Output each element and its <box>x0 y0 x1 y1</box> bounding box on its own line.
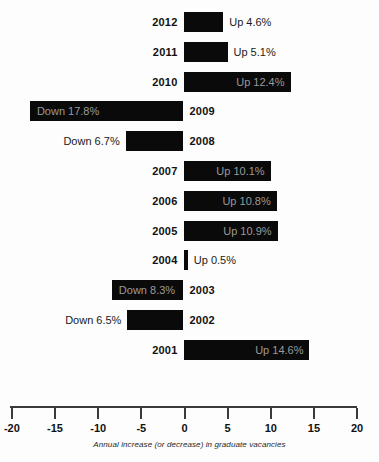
bar-row: 2002Down 6.5% <box>0 308 379 332</box>
bar-2004[interactable] <box>184 250 188 270</box>
value-label-2012: Up 4.6% <box>229 14 271 30</box>
axis-tick-label--20: -20 <box>0 421 32 435</box>
axis-tick-15 <box>313 408 315 419</box>
value-label-2008: Down 6.7% <box>63 133 119 149</box>
axis-caption: Annual increase (or decrease) in graduat… <box>0 440 379 449</box>
year-label-2005: 2005 <box>148 223 178 239</box>
value-label-2003: Down 8.3% <box>112 282 184 298</box>
bar-2008[interactable] <box>126 131 184 151</box>
bar-row: 2011Up 5.1% <box>0 40 379 64</box>
axis-tick-20 <box>356 408 358 419</box>
axis-tick-label-0: 0 <box>165 421 205 435</box>
value-label-2005: Up 10.9% <box>184 223 278 239</box>
bar-2011[interactable] <box>184 42 228 62</box>
axis-tick-0 <box>184 408 186 419</box>
bar-row: 2001Up 14.6% <box>0 338 379 362</box>
axis-tick-label-5: 5 <box>208 421 248 435</box>
bar-row: 2009Down 17.8% <box>0 99 379 123</box>
axis-tick--20 <box>11 408 13 419</box>
axis-tick-label-10: 10 <box>251 421 291 435</box>
axis-tick-label--5: -5 <box>121 421 161 435</box>
axis-tick-label--15: -15 <box>35 421 75 435</box>
bar-row: 2008Down 6.7% <box>0 129 379 153</box>
axis-tick-10 <box>270 408 272 419</box>
value-label-2007: Up 10.1% <box>184 163 271 179</box>
year-label-2011: 2011 <box>148 44 178 60</box>
bar-2012[interactable] <box>184 12 224 32</box>
value-label-2006: Up 10.8% <box>184 193 277 209</box>
bar-row: 2004Up 0.5% <box>0 248 379 272</box>
axis-tick-label-20: 20 <box>337 421 377 435</box>
axis-tick--10 <box>97 408 99 419</box>
year-label-2008: 2008 <box>190 133 215 149</box>
year-label-2009: 2009 <box>190 103 215 119</box>
value-label-2009: Down 17.8% <box>30 103 184 119</box>
axis-tick-5 <box>227 408 229 419</box>
year-label-2010: 2010 <box>148 74 178 90</box>
bar-row: 2007Up 10.1% <box>0 159 379 183</box>
chart-plot-area: 2012Up 4.6%2011Up 5.1%2010Up 12.4%2009Do… <box>0 0 379 398</box>
value-label-2002: Down 6.5% <box>65 312 121 328</box>
axis-tick--15 <box>54 408 56 419</box>
value-label-2010: Up 12.4% <box>184 74 291 90</box>
value-label-2004: Up 0.5% <box>194 252 236 268</box>
year-label-2003: 2003 <box>190 282 215 298</box>
bar-row: 2006Up 10.8% <box>0 189 379 213</box>
bar-row: 2010Up 12.4% <box>0 70 379 94</box>
year-label-2002: 2002 <box>190 312 215 328</box>
axis-tick-label--10: -10 <box>78 421 118 435</box>
year-label-2001: 2001 <box>148 342 178 358</box>
bar-row: 2003Down 8.3% <box>0 278 379 302</box>
year-label-2012: 2012 <box>148 14 178 30</box>
year-label-2007: 2007 <box>148 163 178 179</box>
year-label-2004: 2004 <box>148 252 178 268</box>
axis-tick-label-15: 15 <box>294 421 334 435</box>
bar-row: 2012Up 4.6% <box>0 10 379 34</box>
chart-x-axis: -20-15-10-505101520 Annual increase (or … <box>0 398 379 462</box>
axis-tick--5 <box>140 408 142 419</box>
value-label-2001: Up 14.6% <box>184 342 310 358</box>
year-label-2006: 2006 <box>148 193 178 209</box>
graduate-vacancies-bar-chart: 2012Up 4.6%2011Up 5.1%2010Up 12.4%2009Do… <box>0 0 379 462</box>
value-label-2011: Up 5.1% <box>234 44 276 60</box>
bar-row: 2005Up 10.9% <box>0 219 379 243</box>
bar-2002[interactable] <box>127 310 183 330</box>
